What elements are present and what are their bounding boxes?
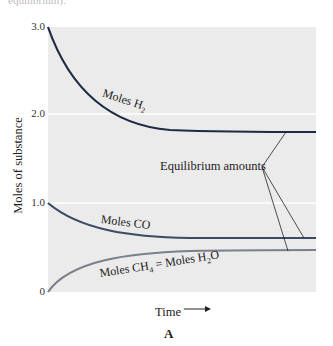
ytick-3: 3.0 <box>21 20 45 32</box>
equilibrium-annotation: Equilibrium amounts <box>160 159 266 174</box>
y-axis-label: Moles of substance <box>11 111 26 221</box>
x-axis-label: Time <box>155 305 181 320</box>
panel-label: A <box>164 326 173 342</box>
ytick-0: 0 <box>21 285 45 297</box>
time-arrow-head-icon <box>205 306 211 312</box>
